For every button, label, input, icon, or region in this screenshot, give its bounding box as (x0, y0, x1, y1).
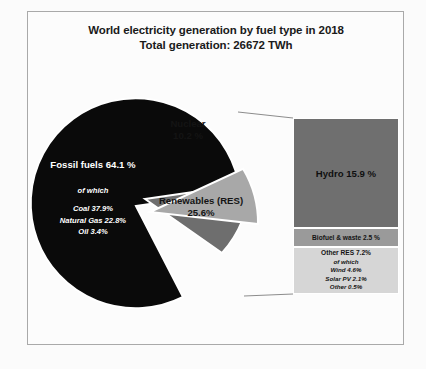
bar-label-other-res-breakdown: Wind 4.6% Solar PV 2.1% Other 0.5% (321, 266, 371, 291)
bar-segment-other-res[interactable]: Other RES 7.2% of which Wind 4.6% Solar … (293, 247, 399, 294)
bar-label-biofuel-waste: Biofuel & waste 2.5 % (312, 234, 380, 241)
figure-canvas: World electricity generation by fuel typ… (0, 0, 426, 369)
bar-label-other-res: Other RES 7.2% (321, 249, 371, 257)
renewables-breakdown-bar: Hydro 15.9 % Biofuel & waste 2.5 % Other… (293, 118, 399, 294)
bar-label-hydro: Hydro 15.9 % (316, 168, 376, 179)
bar-segment-hydro[interactable]: Hydro 15.9 % (293, 118, 399, 228)
bar-label-other-res-of-which: of which (321, 258, 371, 266)
bar-segment-biofuel-waste[interactable]: Biofuel & waste 2.5 % (293, 228, 399, 247)
